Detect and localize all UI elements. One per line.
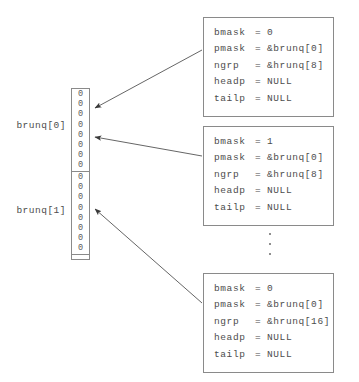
- field-value: 0: [267, 27, 273, 38]
- field-label: headp: [214, 332, 255, 343]
- field-label: ngrp: [214, 316, 255, 327]
- field-equals: =: [255, 316, 267, 327]
- field-equals: =: [255, 76, 267, 87]
- struct-box-top: bmask = 0 pmask = &brunq[0] ngrp = &hrun…: [203, 17, 334, 117]
- field-value: 1: [267, 136, 273, 147]
- field-value: &hrunq[16]: [267, 316, 330, 327]
- field-label: tailp: [214, 202, 255, 213]
- array-cell: 0: [72, 182, 89, 192]
- struct-field-bmask: bmask = 1: [214, 136, 333, 152]
- array-cell: 0: [72, 192, 89, 202]
- array-cell: 0: [72, 150, 89, 160]
- array-label-brunq-0: brunq[0]: [4, 120, 66, 131]
- field-value: &brunq[0]: [267, 299, 324, 310]
- array-cell: 0: [72, 120, 89, 130]
- field-equals: =: [255, 202, 267, 213]
- array-cell: 0: [72, 89, 89, 99]
- arrow-to-struct-top: [95, 50, 202, 108]
- field-value: &hrunq[8]: [267, 60, 324, 71]
- field-value: NULL: [267, 185, 292, 196]
- field-equals: =: [255, 349, 267, 360]
- array-cell: 0: [72, 233, 89, 243]
- struct-field-ngrp: ngrp = &hrunq[8]: [214, 169, 333, 185]
- field-value: NULL: [267, 202, 292, 213]
- ellipsis-dot: [269, 253, 271, 255]
- field-label: headp: [214, 76, 255, 87]
- field-equals: =: [255, 43, 267, 54]
- array-cell: 0: [72, 160, 89, 170]
- field-value: &brunq[0]: [267, 152, 324, 163]
- array-cell: 0: [72, 223, 89, 233]
- struct-field-tailp: tailp = NULL: [214, 202, 333, 218]
- array-cell: 0: [72, 109, 89, 119]
- struct-box-middle: bmask = 1 pmask = &brunq[0] ngrp = &hrun…: [203, 126, 334, 226]
- vertical-ellipsis-icon: [266, 233, 274, 263]
- array-cell: 0: [72, 203, 89, 213]
- struct-field-headp: headp = NULL: [214, 76, 333, 92]
- field-equals: =: [255, 93, 267, 104]
- array-cell: 0: [72, 243, 89, 253]
- array-cell: 0: [72, 172, 89, 182]
- field-value: 0: [267, 283, 273, 294]
- field-label: bmask: [214, 283, 255, 294]
- field-value: &hrunq[8]: [267, 169, 324, 180]
- struct-field-headp: headp = NULL: [214, 185, 333, 201]
- array-group-0: 0 0 0 0 0 0 0 0: [71, 88, 90, 172]
- diagram-canvas: brunq[0] brunq[1] 0 0 0 0 0 0 0 0 0 0 0 …: [0, 0, 359, 382]
- arrow-to-struct-bottom: [95, 209, 202, 303]
- struct-field-ngrp: ngrp = &hrunq[16]: [214, 316, 333, 332]
- field-label: tailp: [214, 349, 255, 360]
- field-equals: =: [255, 185, 267, 196]
- struct-field-ngrp: ngrp = &hrunq[8]: [214, 60, 333, 76]
- array-group-1: 0 0 0 0 0 0 0 0: [71, 171, 90, 255]
- struct-field-tailp: tailp = NULL: [214, 93, 333, 109]
- field-equals: =: [255, 299, 267, 310]
- struct-field-bmask: bmask = 0: [214, 283, 333, 299]
- struct-field-tailp: tailp = NULL: [214, 349, 333, 365]
- brunq-array: 0 0 0 0 0 0 0 0 0 0 0 0 0 0 0 0: [71, 88, 90, 260]
- struct-box-bottom: bmask = 0 pmask = &brunq[0] ngrp = &hrun…: [203, 273, 334, 373]
- field-equals: =: [255, 27, 267, 38]
- array-label-brunq-1: brunq[1]: [4, 205, 66, 216]
- array-footer-stub: [71, 254, 90, 260]
- struct-field-headp: headp = NULL: [214, 332, 333, 348]
- field-label: pmask: [214, 152, 255, 163]
- ellipsis-dot: [269, 243, 271, 245]
- struct-field-pmask: pmask = &brunq[0]: [214, 43, 333, 59]
- ellipsis-dot: [269, 233, 271, 235]
- field-equals: =: [255, 332, 267, 343]
- field-label: pmask: [214, 43, 255, 54]
- field-equals: =: [255, 169, 267, 180]
- struct-field-pmask: pmask = &brunq[0]: [214, 152, 333, 168]
- field-label: headp: [214, 185, 255, 196]
- array-cell: 0: [72, 130, 89, 140]
- field-value: NULL: [267, 76, 292, 87]
- field-label: bmask: [214, 27, 255, 38]
- field-equals: =: [255, 152, 267, 163]
- field-label: bmask: [214, 136, 255, 147]
- struct-field-pmask: pmask = &brunq[0]: [214, 299, 333, 315]
- field-label: ngrp: [214, 60, 255, 71]
- struct-field-bmask: bmask = 0: [214, 27, 333, 43]
- arrow-to-struct-middle: [95, 137, 202, 156]
- array-cell: 0: [72, 99, 89, 109]
- field-value: NULL: [267, 93, 292, 104]
- array-cell: 0: [72, 140, 89, 150]
- field-equals: =: [255, 283, 267, 294]
- field-label: tailp: [214, 93, 255, 104]
- field-value: NULL: [267, 349, 292, 360]
- field-value: &brunq[0]: [267, 43, 324, 54]
- field-equals: =: [255, 136, 267, 147]
- field-equals: =: [255, 60, 267, 71]
- array-cell: 0: [72, 213, 89, 223]
- field-label: pmask: [214, 299, 255, 310]
- field-value: NULL: [267, 332, 292, 343]
- field-label: ngrp: [214, 169, 255, 180]
